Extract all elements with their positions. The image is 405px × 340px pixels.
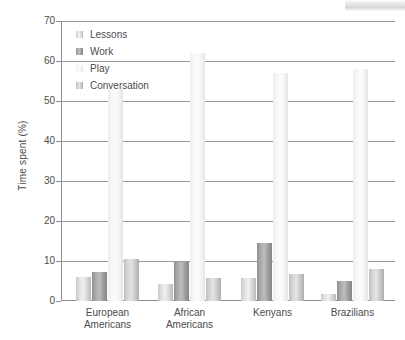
bar-play-european-americans (108, 89, 123, 301)
bar-lessons-kenyans (241, 278, 256, 301)
x-axis-category-label: EuropeanAmericans (63, 307, 153, 331)
bar-work-brazilians (337, 281, 352, 301)
y-axis-tick-label: 50 (27, 95, 55, 106)
legend-item-work: Work (76, 45, 149, 58)
bar-lessons-european-americans (76, 277, 91, 301)
legend-swatch-icon (76, 31, 83, 38)
y-axis-title: Time spent (%) (17, 96, 28, 216)
legend-label: Work (90, 46, 113, 57)
y-axis-tick-label: 40 (27, 135, 55, 146)
x-axis-label-line: Kenyans (228, 307, 318, 319)
legend-item-conversation: Conversation (76, 79, 149, 92)
x-axis-category-label: AfricanAmericans (145, 307, 235, 331)
bar-lessons-african-americans (158, 284, 173, 301)
legend-label: Lessons (90, 29, 127, 40)
x-axis-label-line: Americans (145, 319, 235, 331)
bar-group (321, 21, 384, 301)
y-axis-tick-label: 0 (27, 295, 55, 306)
legend-swatch-icon (76, 48, 83, 55)
x-axis-label-line: African (145, 307, 235, 319)
bar-conversation-brazilians (369, 269, 384, 301)
scan-artifact (345, 0, 405, 11)
y-axis-tick-label: 20 (27, 215, 55, 226)
bar-play-kenyans (273, 73, 288, 301)
legend-label: Play (90, 63, 109, 74)
y-axis-tick (56, 301, 61, 302)
bar-lessons-brazilians (321, 294, 336, 301)
legend-item-play: Play (76, 62, 149, 75)
bar-work-kenyans (257, 243, 272, 301)
bar-play-african-americans (190, 53, 205, 301)
y-axis-tick-label: 60 (27, 55, 55, 66)
bar-group (158, 21, 221, 301)
x-axis-label-line: Americans (63, 319, 153, 331)
bar-conversation-kenyans (289, 274, 304, 301)
legend-item-lessons: Lessons (76, 28, 149, 41)
bar-chart: Time spent (%) 010203040506070 EuropeanA… (0, 0, 405, 340)
bar-conversation-african-americans (206, 278, 221, 301)
legend-swatch-icon (76, 82, 83, 89)
bar-group (241, 21, 304, 301)
bar-work-african-americans (174, 262, 189, 301)
x-axis-category-label: Kenyans (228, 307, 318, 319)
x-axis-label-line: European (63, 307, 153, 319)
y-axis-tick-label: 30 (27, 175, 55, 186)
bar-play-brazilians (353, 69, 368, 301)
chart-legend: LessonsWorkPlayConversation (76, 28, 149, 96)
y-axis-tick-label: 70 (27, 15, 55, 26)
y-axis-tick-label: 10 (27, 255, 55, 266)
legend-label: Conversation (90, 80, 149, 91)
x-axis-category-label: Brazilians (308, 307, 398, 319)
bar-work-european-americans (92, 272, 107, 301)
x-axis-label-line: Brazilians (308, 307, 398, 319)
bar-conversation-european-americans (124, 259, 139, 301)
legend-swatch-icon (76, 65, 83, 72)
